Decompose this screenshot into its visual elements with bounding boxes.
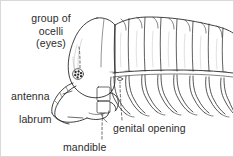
- label-ocelli-line1: group of: [31, 12, 70, 24]
- label-genital-opening: genital opening: [113, 122, 186, 135]
- label-ocelli-line3: (eyes): [36, 37, 66, 49]
- label-mandible: mandible: [63, 141, 106, 154]
- anatomical-figure: group of ocelli (eyes) antenna labrum ma…: [0, 0, 234, 157]
- label-antenna: antenna: [11, 90, 50, 103]
- ocelli-cluster: [73, 69, 84, 80]
- mandible: [97, 87, 118, 122]
- label-ocelli-line2: ocelli: [39, 25, 64, 37]
- label-group-of-ocelli: group of ocelli (eyes): [15, 12, 87, 50]
- label-labrum: labrum: [19, 113, 52, 126]
- legs: [110, 70, 234, 117]
- genital-opening-marker: [117, 78, 122, 81]
- body-segments: [114, 17, 223, 73]
- labrum: [87, 111, 109, 120]
- body-dorsal-outline: [115, 17, 233, 33]
